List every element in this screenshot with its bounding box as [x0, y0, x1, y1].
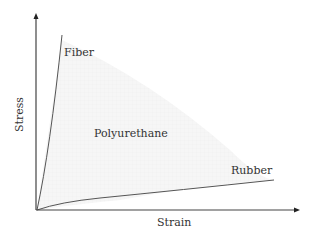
- y-axis-label: Stress: [13, 97, 26, 132]
- x-axis-label: Strain: [157, 216, 191, 229]
- rubber-label: Rubber: [231, 164, 273, 177]
- polyurethane-label: Polyurethane: [94, 127, 168, 140]
- polyurethane-region: [37, 40, 272, 210]
- x-axis-arrow-icon: [294, 208, 300, 213]
- stress-strain-diagram: Fiber Polyurethane Rubber Strain Stress: [0, 0, 313, 239]
- fiber-label: Fiber: [64, 46, 95, 59]
- y-axis-arrow-icon: [34, 13, 39, 19]
